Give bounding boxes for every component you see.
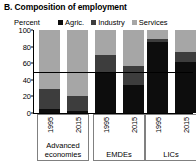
chart-title: B. Composition of employment	[4, 2, 127, 12]
chart-figure: B. Composition of employment Percent Agr…	[0, 0, 196, 162]
bar-segment-services	[147, 30, 168, 39]
legend-swatch-industry	[91, 20, 96, 25]
legend-item-industry: Industry	[91, 18, 125, 27]
bar-segment-agric	[175, 62, 196, 113]
y-tickmark-100	[31, 30, 33, 31]
legend-item-services: Services	[132, 18, 168, 27]
year-label-1995: 1995	[102, 117, 111, 133]
bar-segment-industry	[123, 66, 144, 85]
y-tick-100: 100	[18, 26, 31, 35]
category-group-0: 19952015Advanced economies	[37, 114, 89, 161]
bar-segment-agric	[67, 111, 88, 113]
y-axis-tick-labels: 100 80 60 40 20 0	[0, 30, 31, 113]
y-tick-80: 80	[23, 42, 31, 51]
bar-segment-agric	[147, 42, 168, 113]
year-label-1995: 1995	[154, 117, 163, 133]
legend-swatch-agric	[58, 20, 63, 25]
bar-segment-agric	[95, 72, 116, 114]
legend-swatch-services	[132, 20, 137, 25]
legend-item-agric: Agric.	[58, 18, 84, 27]
y-tickmark-80	[31, 46, 33, 47]
bar-segment-services	[175, 30, 196, 52]
y-tickmark-60	[31, 63, 33, 64]
bar-segment-services	[39, 30, 60, 89]
y-tick-40: 40	[23, 75, 31, 84]
bar-segment-agric	[39, 109, 60, 113]
bar-segment-industry	[39, 89, 60, 109]
legend-label-industry: Industry	[98, 18, 125, 27]
chart-legend: Agric. Industry Services	[58, 18, 168, 27]
bar-segment-services	[123, 30, 144, 66]
y-tickmark-40	[31, 79, 33, 80]
bar-segment-industry	[95, 55, 116, 72]
bar-segment-services	[95, 30, 116, 55]
group-label: LICs	[146, 151, 196, 160]
y-tickmark-20	[31, 96, 33, 97]
category-group-2: 19952015LICs	[145, 114, 196, 161]
bar-segment-agric	[123, 85, 144, 113]
category-group-1: 19952015EMDEs	[93, 114, 145, 161]
year-label-2015: 2015	[130, 117, 139, 133]
legend-label-services: Services	[139, 18, 168, 27]
y-tickmark-0	[31, 113, 33, 114]
bar-segment-industry	[175, 52, 196, 62]
group-label: Advanced economies	[38, 142, 88, 159]
group-label: EMDEs	[94, 151, 144, 160]
legend-label-agric: Agric.	[65, 18, 84, 27]
year-label-1995: 1995	[46, 117, 55, 133]
year-label-2015: 2015	[74, 117, 83, 133]
bar-segment-services	[67, 30, 88, 96]
reference-line-50	[33, 72, 193, 73]
y-tick-60: 60	[23, 59, 31, 68]
y-tick-20: 20	[23, 92, 31, 101]
year-label-2015: 2015	[182, 117, 191, 133]
bar-segment-industry	[67, 96, 88, 111]
